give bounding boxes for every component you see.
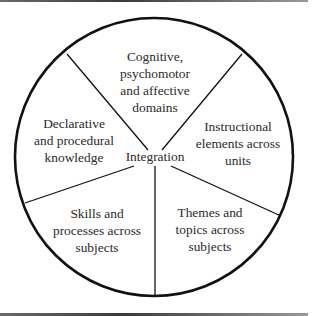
center-label-integration: Integration <box>116 148 194 165</box>
segment-themes-topics: Themes and topics across subjects <box>160 204 260 255</box>
segment-declarative-procedural: Declarative and procedural knowledge <box>22 115 126 166</box>
segment-instructional-elements: Instructional elements across units <box>186 118 290 169</box>
segment-cognitive-domains: Cognitive, psychomotor and affective dom… <box>100 48 210 116</box>
spoke-lower-left <box>25 166 134 203</box>
segment-skills-processes: Skills and processes across subjects <box>42 205 152 256</box>
